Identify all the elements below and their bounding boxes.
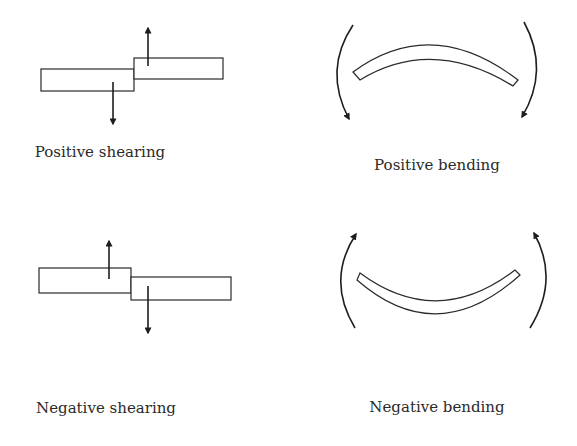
- right-moment-arrow-icon: [522, 22, 537, 117]
- right-moment-arrow-icon: [530, 233, 546, 328]
- left-moment-arrow-icon: [337, 25, 353, 119]
- left-beam-segment: [41, 69, 134, 91]
- right-beam-segment: [131, 277, 231, 300]
- negative-bending-panel: Negative bending: [341, 233, 546, 416]
- negative-bending-label: Negative bending: [369, 398, 505, 416]
- negative-shearing-label: Negative shearing: [36, 399, 176, 417]
- left-beam-segment: [39, 268, 131, 293]
- positive-shearing-label: Positive shearing: [35, 143, 166, 161]
- positive-shearing-panel: Positive shearing: [35, 28, 223, 161]
- bent-beam-concave: [357, 270, 520, 314]
- positive-bending-label: Positive bending: [374, 156, 500, 174]
- left-moment-arrow-icon: [341, 234, 356, 328]
- negative-shearing-panel: Negative shearing: [36, 241, 231, 417]
- positive-bending-panel: Positive bending: [337, 22, 537, 174]
- bent-beam-convex: [353, 45, 518, 86]
- sign-convention-diagram: Positive shearing Positive bending Negat…: [0, 0, 577, 446]
